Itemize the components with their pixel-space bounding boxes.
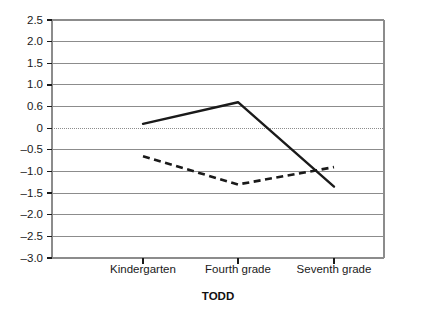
y-axis-tick-label: –0.5 <box>21 143 43 155</box>
y-axis-tick-label: 0.6 <box>27 100 43 112</box>
y-axis-tick-label: 2.5 <box>27 14 43 26</box>
y-axis-tick-label: –2.5 <box>21 230 43 242</box>
x-axis-category-label: Fourth grade <box>205 263 271 275</box>
line-chart: 2.52.01.51.00.60–0.5–1.0–1.5–2.0–2.5–3.0… <box>0 0 446 323</box>
y-axis-tick-label: 1.0 <box>27 78 43 90</box>
y-axis-tick-label: 2.0 <box>27 35 43 47</box>
x-axis-title: TODD <box>202 290 234 302</box>
y-axis-tick-label: 1.5 <box>27 57 43 69</box>
y-axis-tick-label: –1.5 <box>21 187 43 199</box>
y-axis-tick-label: –1.0 <box>21 165 43 177</box>
chart-canvas: 2.52.01.51.00.60–0.5–1.0–1.5–2.0–2.5–3.0… <box>0 0 446 323</box>
x-axis-category-label: Seventh grade <box>297 263 372 275</box>
y-axis-tick-label: –2.0 <box>21 208 43 220</box>
x-axis-tick-labels: KindergartenFourth gradeSeventh grade <box>110 263 371 275</box>
y-axis-tick-label: 0 <box>37 122 43 134</box>
x-axis-category-label: Kindergarten <box>110 263 176 275</box>
y-axis-tick-label: –3.0 <box>21 252 43 264</box>
